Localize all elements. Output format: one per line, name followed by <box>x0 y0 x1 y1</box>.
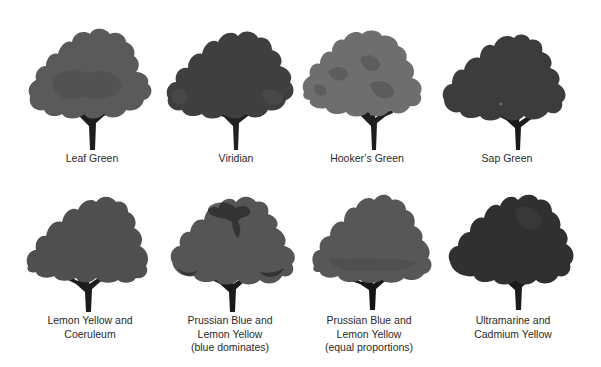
caption-line: Leaf Green <box>12 152 172 166</box>
caption-line: Ultramarine and <box>433 314 593 328</box>
tree-canopy <box>303 30 422 116</box>
tree-canopy <box>443 34 566 120</box>
tree-lemon-yellow-coeruleum <box>24 186 164 316</box>
caption-line: (blue dominates) <box>150 341 310 355</box>
caption-line: Coeruleum <box>10 328 170 342</box>
tree-illustration <box>24 186 164 316</box>
tree-viridian <box>162 22 302 152</box>
caption-prussian-blue-lemon-yellow-blue-dominates: Prussian Blue and Lemon Yellow (blue dom… <box>150 314 310 355</box>
tree-prussian-blue-lemon-yellow-equal <box>310 186 450 316</box>
caption-hookers-green: Hooker’s Green <box>287 152 447 166</box>
tree-canopy-shading <box>52 70 122 100</box>
caption-ultramarine-cadmium-yellow: Ultramarine and Cadmium Yellow <box>433 314 593 341</box>
tree-ultramarine-cadmium-yellow <box>448 188 588 318</box>
caption-prussian-blue-lemon-yellow-equal: Prussian Blue and Lemon Yellow (equal pr… <box>289 314 449 355</box>
caption-sap-green: Sap Green <box>427 152 587 166</box>
tree-sap-green <box>442 26 582 156</box>
caption-line: Lemon Yellow and <box>10 314 170 328</box>
tree-hookers-green <box>300 22 440 152</box>
tree-illustration <box>162 22 302 152</box>
caption-line: Lemon Yellow <box>289 328 449 342</box>
caption-line: Prussian Blue and <box>150 314 310 328</box>
tree-illustration <box>168 188 308 318</box>
tree-leaf-green <box>22 22 162 152</box>
caption-line: Lemon Yellow <box>150 328 310 342</box>
caption-line: (equal proportions) <box>289 341 449 355</box>
caption-line: Prussian Blue and <box>289 314 449 328</box>
caption-line: Sap Green <box>427 152 587 166</box>
tree-highlight-dot <box>500 103 503 106</box>
tree-color-figure: Leaf Green Viridian Hooker’s Green Sap G… <box>0 0 601 367</box>
tree-canopy <box>449 195 574 285</box>
tree-canopy <box>27 197 148 283</box>
tree-illustration <box>300 22 440 152</box>
caption-line: Hooker’s Green <box>287 152 447 166</box>
caption-line: Cadmium Yellow <box>433 328 593 342</box>
tree-illustration <box>22 22 162 152</box>
tree-illustration <box>448 188 588 318</box>
tree-illustration <box>310 186 450 316</box>
tree-prussian-blue-lemon-yellow-blue-dominates <box>168 188 308 318</box>
caption-lemon-yellow-coeruleum: Lemon Yellow and Coeruleum <box>10 314 170 341</box>
tree-illustration <box>442 26 582 156</box>
caption-leaf-green: Leaf Green <box>12 152 172 166</box>
tree-canopy <box>167 32 294 119</box>
